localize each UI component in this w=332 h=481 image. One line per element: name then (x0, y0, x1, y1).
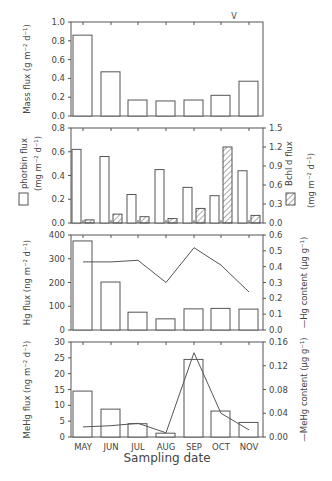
y-tick-label: 0.0 (51, 218, 65, 228)
y-right-tick-label: 0.00 (269, 432, 288, 442)
x-tick-label: NOV (240, 442, 259, 452)
y-right-tick-label: 0.6 (269, 230, 283, 240)
bar (156, 101, 175, 116)
figure: 0.00.20.40.60.81.0Mass flux (g m⁻² d⁻¹)V… (0, 0, 332, 481)
y-tick-label: 15 (54, 385, 65, 395)
bar (101, 282, 120, 330)
y-right-axis-label: —Hg content (μg g⁻¹) (299, 237, 309, 329)
bar-bchl (113, 214, 122, 223)
bar-bchl (140, 217, 149, 223)
y-tick-label: 0.0 (51, 111, 65, 121)
y-tick-label: 400 (49, 230, 65, 240)
bar (101, 409, 120, 437)
y-tick-label: 0.4 (51, 171, 65, 181)
y-tick-label: 0.8 (51, 123, 65, 133)
bar (128, 312, 147, 330)
x-tick-label: JUN (102, 442, 118, 452)
x-tick-label: MAY (74, 442, 92, 452)
y-tick-label: 0 (60, 325, 65, 335)
bar (156, 433, 175, 437)
y-right-tick-label: 1.5 (269, 123, 283, 133)
y-right-tick-label: 0.04 (269, 408, 288, 418)
bar-bchl (196, 208, 205, 223)
bar (239, 309, 258, 330)
y-tick-label: 20 (54, 369, 65, 379)
plot-frame (71, 235, 263, 330)
y-right-tick-label: 0.3 (269, 199, 283, 209)
y-tick-label: 0.2 (51, 194, 65, 204)
panel-4: 0510152025300.000.040.080.120.16MeHg flu… (22, 337, 309, 452)
bar (211, 95, 230, 116)
y-tick-label: 300 (49, 254, 65, 264)
x-axis-label: Sampling date (123, 451, 210, 465)
y-tick-label: 0.8 (51, 36, 65, 46)
bar-bchl (85, 220, 94, 223)
panel-1: 0.00.20.40.60.81.0Mass flux (g m⁻² d⁻¹)V (22, 12, 263, 121)
bar (211, 411, 230, 437)
bar (73, 241, 92, 330)
bar-phorbin (72, 149, 81, 223)
panel-2: 0.00.20.40.60.80.00.30.60.91.21.5phorbin… (19, 123, 316, 228)
y-right-axis-label: Bchl d flux (284, 141, 294, 186)
y-tick-label: 0 (60, 432, 65, 442)
y-axis-label: Mass flux (g m⁻² d⁻¹) (22, 24, 32, 113)
y-tick-label: 25 (54, 353, 65, 363)
bar-phorbin (238, 171, 247, 223)
bar (73, 35, 92, 116)
y-tick-label: 10 (54, 400, 65, 410)
bar (128, 100, 147, 116)
y-tick-label: 0.6 (51, 55, 65, 65)
bar (101, 72, 120, 116)
bar-phorbin (127, 195, 136, 224)
bar (156, 319, 175, 330)
bar-bchl (168, 219, 177, 223)
bar (211, 308, 230, 330)
x-tick-label: OCT (212, 442, 231, 452)
y-right-tick-label: 0.5 (269, 246, 283, 256)
y-tick-label: 0.2 (51, 92, 65, 102)
legend-open-box (19, 193, 28, 205)
y-right-tick-label: 0.2 (269, 293, 283, 303)
y-axis-label: phorbin flux (19, 138, 29, 189)
plot-frame (71, 342, 263, 437)
bar (184, 309, 203, 330)
bar-bchl (251, 215, 260, 223)
y-tick-label: 5 (60, 416, 65, 426)
y-right-tick-label: 1.2 (269, 142, 283, 152)
y-right-tick-label: 0.0 (269, 218, 283, 228)
y-tick-label: 0.6 (51, 147, 65, 157)
panel-3: 01002003004000.00.10.20.30.40.50.6Hg flu… (22, 230, 309, 335)
bar-phorbin (210, 196, 219, 223)
y-right-tick-label: 0.12 (269, 361, 288, 371)
y-right-tick-label: 0.08 (269, 385, 288, 395)
y-right-tick-label: 0.3 (269, 278, 283, 288)
y-right-tick-label: 0.0 (269, 325, 283, 335)
y-tick-label: 30 (54, 337, 65, 347)
y-right-axis-label: —MeHg content (μg g⁻¹) (299, 337, 309, 441)
y-right-tick-label: 0.1 (269, 309, 283, 319)
bar-bchl (223, 147, 232, 223)
y-tick-label: 100 (49, 301, 65, 311)
bar (184, 359, 203, 437)
y-axis-label: MeHg flux (ng m⁻² d⁻¹) (22, 341, 32, 439)
bar (73, 391, 92, 437)
y-tick-label: 1.0 (51, 17, 65, 27)
bar-phorbin (183, 187, 192, 223)
y-right-tick-label: 0.6 (269, 180, 283, 190)
legend-hatched-box (286, 193, 295, 205)
y-right-tick-label: 0.4 (269, 262, 283, 272)
y-right-axis-units: (mg m⁻² d⁻¹) (306, 153, 316, 208)
bar (184, 100, 203, 116)
bar-phorbin (155, 170, 164, 223)
y-right-tick-label: 0.16 (269, 337, 288, 347)
y-axis-units: (mg m⁻² d⁻¹) (33, 136, 43, 191)
annotation-v: V (231, 12, 237, 21)
y-tick-label: 0.4 (51, 73, 65, 83)
y-axis-label: Hg flux (ng m⁻² d⁻¹) (22, 240, 32, 325)
bar-phorbin (100, 157, 109, 224)
y-right-tick-label: 0.9 (269, 161, 283, 171)
y-tick-label: 200 (49, 278, 65, 288)
bar (239, 81, 258, 116)
